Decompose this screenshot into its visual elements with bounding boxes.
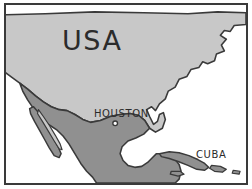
label-usa: USA [62, 25, 122, 56]
map-figure: USA HOUSTON CUBA [0, 0, 252, 189]
map-border-frame: USA HOUSTON CUBA [4, 3, 248, 185]
label-cuba: CUBA [196, 149, 226, 160]
label-houston: HOUSTON [94, 108, 149, 119]
houston-marker [113, 121, 118, 126]
island-bahamas [232, 170, 240, 174]
